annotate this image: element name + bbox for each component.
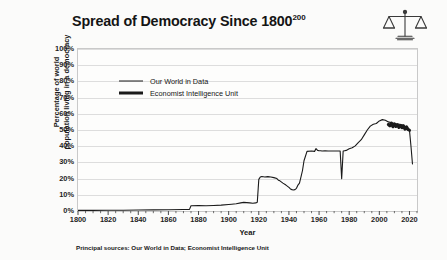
y-tick-label: 100% [30,45,74,53]
y-tick-label: 80% [30,77,74,85]
y-tick-label: 10% [30,191,74,199]
legend: Our World in Data Economist Intelligence… [118,75,308,99]
legend-label-economist-intelligence-unit: Economist Intelligence Unit [150,89,238,98]
chart-title-superscript: 200 [292,13,305,22]
legend-label-our-world-in-data: Our World in Data [150,77,208,86]
y-tick-label: 50% [30,126,74,134]
chart-screenshot: Spread of Democracy Since 1800200 Percen… [0,0,447,260]
source-footnote: Principal sources: Our World in Data; Ec… [76,244,269,251]
legend-item-our-world-in-data: Our World in Data [118,75,308,87]
legend-swatch-thin-line-icon [118,76,144,86]
y-tick-label: 30% [30,158,74,166]
chart-title-text: Spread of Democracy Since 1800 [72,13,292,29]
legend-item-economist-intelligence-unit: Economist Intelligence Unit [118,87,308,99]
legend-swatch-thick-line-icon [118,88,144,98]
y-tick-label: 60% [30,110,74,118]
page-title: Spread of Democracy Since 1800200 [72,13,306,29]
x-axis-ticks [0,211,447,221]
data-series-canvas [78,49,417,211]
scales-of-justice-icon [382,8,428,44]
y-tick-label: 90% [30,61,74,69]
plot-area: Our World in Data Economist Intelligence… [77,48,418,212]
y-tick-label: 40% [30,142,74,150]
y-tick-label: 20% [30,175,74,183]
series-line-our-world-in-data [78,120,412,211]
x-axis-title: Year [77,228,418,237]
y-tick-label: 70% [30,94,74,102]
